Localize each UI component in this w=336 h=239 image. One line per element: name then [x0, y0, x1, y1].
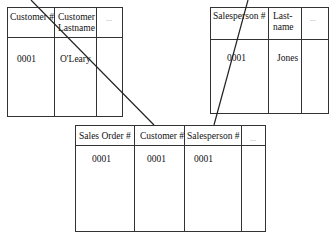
customer-header-id: Customer #	[10, 12, 55, 23]
customer-cell-id: 0001	[17, 54, 36, 65]
sales-order-header-divider	[76, 145, 265, 146]
salesperson-table: Salesperson # Last-name ... 0001 Jones	[210, 7, 329, 114]
salesperson-cell-id: 0001	[227, 53, 246, 64]
sales-order-cell-salesperson: 0001	[194, 154, 213, 165]
sales-order-cell-customer: 0001	[147, 154, 166, 165]
sales-order-header-customer: Customer #	[140, 131, 186, 142]
sales-order-cell-id: 0001	[92, 154, 111, 165]
salesperson-header-id: Salesperson #	[213, 11, 269, 22]
customer-header-divider	[8, 37, 122, 38]
customer-cell-lastname: O'Leary	[60, 54, 91, 65]
salesperson-header-lastname: Last-name	[273, 11, 297, 33]
customer-col-more	[97, 8, 124, 116]
salesperson-header-more: ...	[310, 13, 325, 24]
sales-order-header-more: ...	[250, 133, 265, 144]
customer-table: Customer # Customer Lastname ... 0001 O'…	[7, 7, 123, 117]
salesperson-header-divider	[211, 39, 328, 40]
sales-order-header-id: Sales Order #	[79, 131, 135, 142]
sales-order-table: Sales Order # Customer # Salesperson # .…	[75, 125, 266, 232]
customer-header-more: ...	[106, 13, 121, 24]
customer-header-lastname: Customer Lastname	[58, 12, 98, 34]
sales-order-header-salesperson: Salesperson #	[187, 131, 243, 142]
salesperson-cell-lastname: Jones	[277, 53, 298, 64]
